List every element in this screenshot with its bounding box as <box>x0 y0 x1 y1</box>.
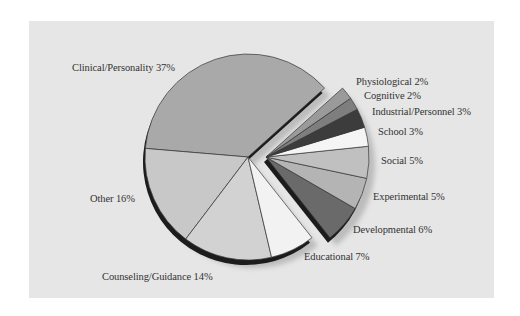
label-developmental: Developmental 6% <box>353 224 432 235</box>
label-experimental: Experimental 5% <box>373 191 445 202</box>
label-clinical: Clinical/Personality 37% <box>72 62 175 73</box>
label-counseling: Counseling/Guidance 14% <box>102 271 213 282</box>
label-physiological: Physiological 2% <box>356 76 428 87</box>
label-other: Other 16% <box>90 193 135 204</box>
label-social: Social 5% <box>381 155 423 166</box>
label-cognitive: Cognitive 2% <box>364 90 421 101</box>
pie-chart <box>0 0 520 316</box>
label-school: School 3% <box>378 126 423 137</box>
label-industrial: Industrial/Personnel 3% <box>372 106 471 117</box>
label-educational: Educational 7% <box>304 251 369 262</box>
